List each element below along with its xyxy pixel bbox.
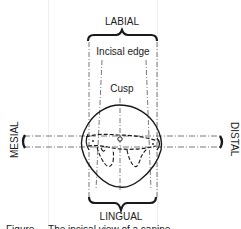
figure-caption-partial: Figure ... The incisal view of a canine.… <box>0 224 241 229</box>
diagram-canvas: LABIAL Incisal edge Cusp LINGUAL MESIAL … <box>0 0 241 229</box>
tooth-diagram-svg <box>0 0 241 229</box>
incisal-edge-label: Incisal edge <box>96 46 149 58</box>
lingual-label: LINGUAL <box>100 211 143 223</box>
labial-label: LABIAL <box>105 16 139 28</box>
incisal-guide-left <box>96 60 102 190</box>
lingual-groove-left <box>97 147 114 167</box>
lingual-groove-small <box>101 148 105 151</box>
cusp-tip-marker <box>118 137 122 141</box>
cusp-label: Cusp <box>110 83 133 95</box>
mesial-label: MESIAL <box>9 121 21 158</box>
mesial-end-cap <box>23 135 25 148</box>
lingual-brace <box>89 197 156 210</box>
distal-contact-dot <box>152 143 154 145</box>
tooth-outline <box>81 105 161 187</box>
distal-end-cap <box>220 136 222 148</box>
distal-label: DISTAL <box>228 122 240 156</box>
mesial-contact-dot <box>92 140 94 142</box>
caption-text: Figure ... The incisal view of a canine.… <box>6 224 241 229</box>
lingual-groove-right <box>127 148 148 167</box>
labial-brace <box>88 30 157 41</box>
